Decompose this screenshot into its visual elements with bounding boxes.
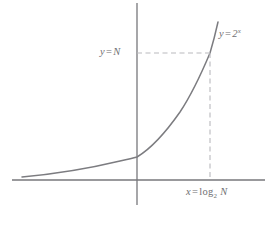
y-value-operator: = xyxy=(105,46,113,57)
x-value-label: x=log2 N xyxy=(186,187,228,198)
x-value-argument: N xyxy=(220,186,227,197)
curve-label-exponent: x xyxy=(238,27,241,35)
y-value-rhs: N xyxy=(113,46,120,57)
x-value-function: log xyxy=(199,186,213,197)
y-value-label: y=N xyxy=(100,47,121,58)
exponential-log-figure: y=2x y=N x=log2 N xyxy=(0,0,277,225)
curve-label: y=2x xyxy=(219,29,241,40)
x-value-operator: = xyxy=(191,186,199,197)
curve-label-operator: = xyxy=(224,28,232,39)
